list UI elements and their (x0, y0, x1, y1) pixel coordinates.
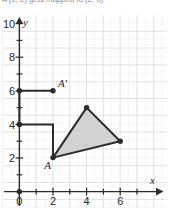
y-tick-label-6: 6 (9, 85, 15, 97)
x-tick-label-0: 0 (16, 195, 22, 207)
triangle-vertex-right-dot (118, 139, 123, 144)
point-a-dot (50, 155, 55, 160)
coordinate-plane: x y 0 2 4 6 2 4 6 8 10 (2, 14, 167, 208)
path-corner-top-dot (17, 88, 22, 93)
y-axis-label: y (22, 16, 28, 28)
caption-text: A (2, 2) gets mapped to (2, 6) (2, 0, 169, 4)
x-axis-label: x (149, 174, 155, 186)
coordinate-plane-svg: x y 0 2 4 6 2 4 6 8 10 (2, 14, 167, 208)
y-tick-label-4: 4 (9, 119, 15, 131)
point-a-label: A (43, 159, 51, 171)
y-tick-label-10: 10 (3, 18, 15, 30)
x-tick-label-4: 4 (84, 195, 90, 207)
point-a-prime-dot (50, 88, 55, 93)
y-tick-label-2: 2 (9, 152, 15, 164)
origin-point (17, 189, 22, 194)
path-corner-mid-dot (17, 122, 22, 127)
y-tick-label-8: 8 (9, 51, 15, 63)
x-tick-label-6: 6 (117, 195, 123, 207)
figure-root: A (2, 2) gets mapped to (2, 6) (0, 0, 169, 210)
x-tick-label-2: 2 (50, 195, 56, 207)
point-a-prime-label: A' (57, 77, 68, 89)
triangle-vertex-top-dot (84, 105, 89, 110)
